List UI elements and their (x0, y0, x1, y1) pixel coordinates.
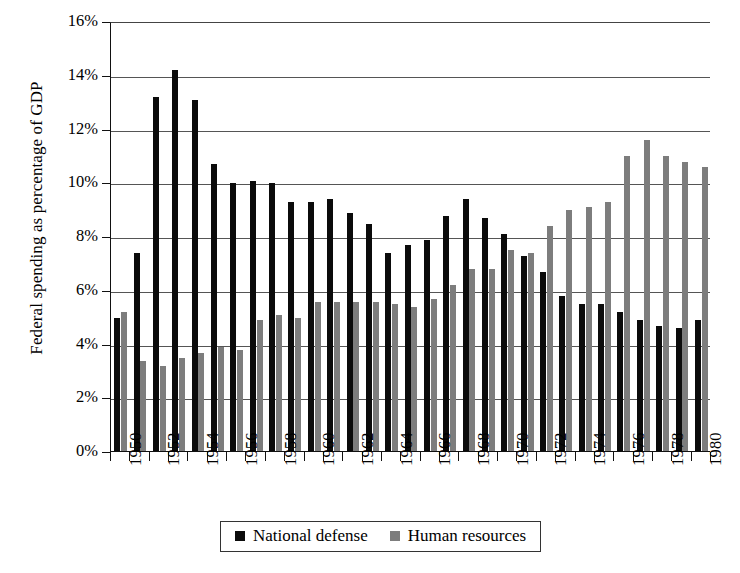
x-axis-tick-label: 1950 (126, 432, 146, 466)
y-axis-tick-mark (102, 76, 110, 77)
y-axis-tick-mark (102, 237, 110, 238)
bar (230, 183, 236, 452)
x-axis-tick-label: 1974 (590, 432, 610, 466)
y-axis-tick-label: 14% (52, 67, 98, 84)
y-axis-tick-mark (102, 345, 110, 346)
y-axis-tick-label: 12% (52, 121, 98, 138)
bar-group (363, 23, 382, 452)
bar (392, 304, 398, 452)
bar (443, 216, 449, 453)
bar (411, 307, 417, 452)
bar (528, 253, 534, 452)
y-axis-tick-label: 6% (52, 282, 98, 299)
bar (521, 256, 527, 452)
y-axis-tick-mark (102, 130, 110, 131)
legend-swatch-icon (235, 531, 245, 541)
bar-group (479, 23, 498, 452)
x-axis-tick-label: 1960 (319, 432, 339, 466)
bar-group (305, 23, 324, 452)
bar (308, 202, 314, 452)
bar (192, 100, 198, 452)
x-axis-tick-label: 1962 (358, 432, 378, 466)
bar (682, 162, 688, 452)
bar-group (614, 23, 633, 452)
x-axis-tick-label: 1954 (203, 432, 223, 466)
x-axis-tick-label: 1968 (474, 432, 494, 466)
legend-item[interactable]: National defense (235, 526, 368, 546)
bar (327, 199, 333, 452)
bar-group (421, 23, 440, 452)
bar (334, 302, 340, 453)
legend-swatch-icon (390, 531, 400, 541)
y-axis-tick-label: 2% (52, 389, 98, 406)
bar-group (227, 23, 246, 452)
y-axis-tick-mark (102, 398, 110, 399)
bar (250, 181, 256, 452)
bar (315, 302, 321, 453)
bar-group (672, 23, 691, 452)
bar (663, 156, 669, 452)
bar (431, 299, 437, 452)
bar (211, 164, 217, 452)
bar-group (246, 23, 265, 452)
bar (385, 253, 391, 452)
bar (366, 224, 372, 452)
bar (644, 140, 650, 452)
bar (695, 320, 701, 452)
bar (501, 234, 507, 452)
y-axis-tick-label: 10% (52, 174, 98, 191)
x-axis-tick-label: 1976 (629, 432, 649, 466)
chart-legend: National defenseHuman resources (220, 521, 541, 552)
bar (347, 213, 353, 452)
bar-group (208, 23, 227, 452)
bar-group (130, 23, 149, 452)
x-axis-tick-label: 1978 (668, 432, 688, 466)
bar (424, 240, 430, 452)
bar (489, 269, 495, 452)
y-axis-tick-mark (102, 22, 110, 23)
bar (172, 70, 178, 452)
x-axis-tick-label: 1970 (513, 432, 533, 466)
y-axis-tick-label: 8% (52, 228, 98, 245)
bar-group (498, 23, 517, 452)
bar (288, 202, 294, 452)
bar (540, 272, 546, 452)
bar (579, 304, 585, 452)
bar (656, 326, 662, 452)
bar-group (595, 23, 614, 452)
bar (566, 210, 572, 452)
bar (624, 156, 630, 452)
x-axis-tick-label: 1964 (397, 432, 417, 466)
bar-group (459, 23, 478, 452)
x-axis-tick-label: 1972 (551, 432, 571, 466)
bar-group (440, 23, 459, 452)
bar-group (169, 23, 188, 452)
bar-group (692, 23, 711, 452)
bar (353, 302, 359, 453)
bar-group (324, 23, 343, 452)
bar (373, 302, 379, 453)
bar (598, 304, 604, 452)
bar-group (634, 23, 653, 452)
y-axis-tick-label: 4% (52, 336, 98, 353)
legend-label: Human resources (408, 526, 527, 546)
bar (114, 318, 120, 452)
x-axis-tick-label: 1966 (435, 432, 455, 466)
bar (547, 226, 553, 452)
bar-group (576, 23, 595, 452)
bar-group (285, 23, 304, 452)
legend-item[interactable]: Human resources (390, 526, 527, 546)
x-axis-labels: 1950195219541956195819601962196419661968… (0, 452, 740, 522)
bar-group (401, 23, 420, 452)
legend-label: National defense (253, 526, 368, 546)
bar-chart: Federal spending as percentage of GDP 0%… (0, 0, 740, 573)
x-axis-tick-label: 1952 (164, 432, 184, 466)
bar (482, 218, 488, 452)
bar (269, 183, 275, 452)
bar-group (188, 23, 207, 452)
y-axis-tick-label: 16% (52, 13, 98, 30)
bar (450, 285, 456, 452)
bar (463, 199, 469, 452)
bar-group (556, 23, 575, 452)
bar-group (150, 23, 169, 452)
